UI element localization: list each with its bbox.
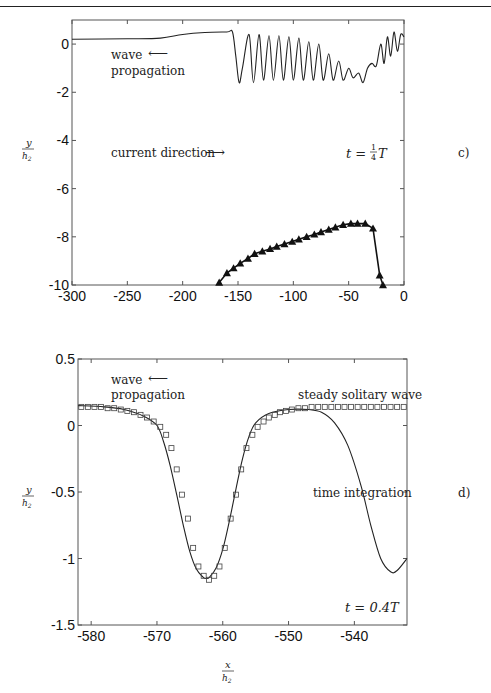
panel-d-label: d)	[458, 486, 470, 500]
panel-c-label: c)	[458, 146, 469, 160]
svg-text:h2: h2	[222, 673, 232, 684]
panel-d-x-axis-label: x h2	[222, 659, 234, 684]
y-tick-label: -6	[57, 181, 70, 197]
square-marker	[362, 404, 367, 409]
y-tick-label: -4	[57, 132, 70, 148]
square-marker	[316, 404, 321, 409]
square-marker	[164, 432, 169, 437]
svg-text:T: T	[378, 146, 388, 161]
y-tick-label: 0.5	[56, 351, 76, 367]
panel-d-steady-legend: steady solitary wave	[298, 388, 422, 402]
svg-text:x: x	[225, 659, 231, 670]
square-marker	[169, 446, 174, 451]
y-tick-label: -10	[49, 277, 69, 293]
square-marker	[191, 545, 196, 550]
y-tick-label: -1	[63, 551, 76, 567]
square-marker	[368, 404, 373, 409]
square-marker	[342, 404, 347, 409]
panel-c-left-arrow-icon: ⟵	[148, 45, 168, 61]
y-tick-label: 0	[67, 418, 75, 434]
x-tick-label: -50	[339, 288, 359, 304]
square-marker	[185, 516, 190, 521]
panel-d-time-label: t = 0.4T	[345, 600, 400, 615]
figure-canvas: -300-250-200-150-100-5000-2-4-6-8-10 wav…	[0, 0, 491, 693]
x-tick-label: -570	[143, 628, 171, 644]
x-tick-label: -150	[224, 288, 252, 304]
svg-text:4: 4	[371, 153, 376, 162]
square-marker	[105, 406, 110, 411]
square-marker	[303, 406, 308, 411]
square-marker	[266, 415, 271, 420]
panel-d-integration-legend: time integration	[313, 486, 412, 500]
square-marker	[309, 404, 314, 409]
x-tick-label: -580	[77, 628, 105, 644]
svg-text:t =: t =	[346, 146, 366, 161]
x-tick-label: 0	[400, 288, 408, 304]
x-tick-label: -550	[275, 628, 303, 644]
square-marker	[349, 404, 354, 409]
square-marker	[375, 404, 380, 409]
y-tick-label: -0.5	[51, 484, 75, 500]
square-marker	[179, 492, 184, 497]
panel-c-time-label: t = 1 4 T	[346, 143, 388, 162]
panel-c-triangle-line	[219, 224, 383, 285]
panel-d-plot: -580-570-560-550-5400.50-0.5-1-1.5 wave …	[22, 351, 470, 684]
panel-c-y-axis-label: y h2	[22, 137, 34, 162]
square-marker	[388, 404, 393, 409]
panel-c-plot: -300-250-200-150-100-5000-2-4-6-8-10 wav…	[22, 20, 469, 304]
square-marker	[174, 467, 179, 472]
panel-c-ticks: -300-250-200-150-100-5000-2-4-6-8-10	[49, 20, 408, 304]
y-tick-label: -2	[57, 84, 70, 100]
x-tick-label: -200	[169, 288, 197, 304]
square-marker	[322, 404, 327, 409]
square-marker	[255, 424, 260, 429]
square-marker	[401, 404, 406, 409]
panel-c-current-label: current direction	[111, 146, 215, 160]
panel-c-right-arrow-icon: ⟶	[205, 144, 225, 160]
square-marker	[85, 404, 90, 409]
svg-text:1: 1	[371, 143, 376, 152]
svg-text:y: y	[25, 137, 32, 148]
square-marker	[196, 564, 201, 569]
x-tick-label: -560	[209, 628, 237, 644]
square-marker	[355, 404, 360, 409]
square-marker	[296, 406, 301, 411]
square-marker	[381, 404, 386, 409]
triangle-marker	[376, 271, 384, 278]
square-marker	[335, 404, 340, 409]
y-tick-label: 0	[61, 36, 69, 52]
x-tick-label: -540	[340, 628, 368, 644]
x-tick-label: -100	[279, 288, 307, 304]
triangle-marker	[236, 259, 244, 266]
panel-d-wave-label: wave	[111, 373, 142, 387]
svg-text:h2: h2	[22, 498, 32, 509]
square-marker	[329, 404, 334, 409]
triangle-marker	[369, 224, 377, 231]
square-marker	[272, 412, 277, 417]
svg-text:h2: h2	[22, 151, 32, 162]
x-tick-label: -250	[113, 288, 141, 304]
panel-d-y-axis-label: y h2	[22, 484, 34, 509]
y-tick-label: -8	[57, 229, 70, 245]
panel-d-propagation-label: propagation	[111, 388, 185, 402]
panel-c-triangle-markers	[215, 220, 387, 289]
panel-c-wave-label: wave	[111, 48, 142, 62]
panel-d-left-arrow-icon: ⟵	[148, 370, 168, 386]
square-marker	[261, 419, 266, 424]
svg-text:y: y	[25, 484, 32, 495]
square-marker	[395, 404, 400, 409]
panel-c-propagation-label: propagation	[111, 64, 185, 78]
y-tick-label: -1.5	[51, 617, 75, 633]
